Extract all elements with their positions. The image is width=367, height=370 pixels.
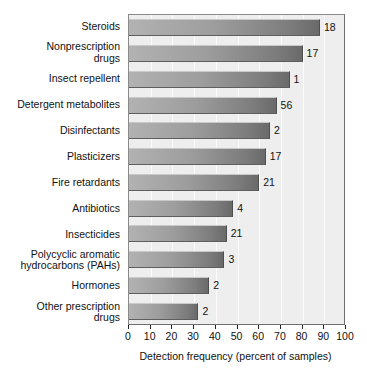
category-axis-labels: SteroidsNonprescription drugsInsect repe… <box>0 14 124 325</box>
category-label: Steroids <box>0 14 124 40</box>
bar-value-label: 2 <box>213 280 219 291</box>
bar-row: 21 <box>129 221 344 247</box>
x-axis-title: Detection frequency (percent of samples) <box>0 350 367 362</box>
bar-row: 17 <box>129 144 344 170</box>
bar-chart: SteroidsNonprescription drugsInsect repe… <box>0 0 367 370</box>
bar <box>129 97 277 114</box>
bar-value-label: 21 <box>231 228 243 239</box>
bar-row: 56 <box>129 92 344 118</box>
bar-row: 21 <box>129 170 344 196</box>
category-label: Disinfectants <box>0 118 124 144</box>
bar <box>129 122 270 139</box>
bar-value-label: 2 <box>202 306 208 317</box>
bar-value-label: 18 <box>324 22 336 33</box>
bar-value-label: 3 <box>228 254 234 265</box>
x-tick-mark <box>258 325 259 329</box>
x-tick-label: 0 <box>125 330 131 342</box>
category-label: Fire retardants <box>0 170 124 196</box>
bar <box>129 303 198 320</box>
x-axis: 0102030405060708090100 <box>128 325 345 347</box>
bar <box>129 251 224 268</box>
bar-value-label: 21 <box>263 177 275 188</box>
x-tick-mark <box>171 325 172 329</box>
x-tick-label: 20 <box>166 330 178 342</box>
x-tick-label: 60 <box>252 330 264 342</box>
bar-row: 3 <box>129 247 344 273</box>
bar <box>129 148 266 165</box>
category-label: Nonprescription drugs <box>0 40 124 66</box>
bar-row: 1 <box>129 67 344 93</box>
x-tick-mark <box>323 325 324 329</box>
category-label: Polycyclic aromatic hydrocarbons (PAHs) <box>0 247 124 273</box>
category-label: Other prescription drugs <box>0 299 124 325</box>
bar <box>129 71 290 88</box>
bar-value-label: 17 <box>307 48 319 59</box>
bar <box>129 225 227 242</box>
bar-value-label: 1 <box>294 74 300 85</box>
plot-area: 181715621721421322 <box>128 14 345 325</box>
bar-row: 2 <box>129 298 344 324</box>
x-tick-mark <box>128 325 129 329</box>
x-tick-label: 80 <box>296 330 308 342</box>
category-label: Plasticizers <box>0 144 124 170</box>
x-tick-label: 90 <box>317 330 329 342</box>
x-tick-label: 30 <box>187 330 199 342</box>
category-label: Insecticides <box>0 221 124 247</box>
bar-row: 2 <box>129 118 344 144</box>
x-tick-label: 10 <box>144 330 156 342</box>
bar-row: 4 <box>129 195 344 221</box>
x-tick-mark <box>215 325 216 329</box>
bar <box>129 45 303 62</box>
bar-series: 181715621721421322 <box>129 15 344 324</box>
x-tick-mark <box>280 325 281 329</box>
bar-value-label: 17 <box>270 151 282 162</box>
x-tick-label: 40 <box>209 330 221 342</box>
x-tick-mark <box>193 325 194 329</box>
category-label: Insect repellent <box>0 66 124 92</box>
x-tick-label: 70 <box>274 330 286 342</box>
x-tick-mark <box>150 325 151 329</box>
x-tick-label: 50 <box>231 330 243 342</box>
category-label: Antibiotics <box>0 195 124 221</box>
x-axis-title-text: Detection frequency (percent of samples) <box>139 350 331 362</box>
bar-row: 17 <box>129 41 344 67</box>
bar-value-label: 56 <box>281 100 293 111</box>
x-tick-label: 100 <box>336 330 354 342</box>
x-tick-mark <box>345 325 346 329</box>
category-label: Detergent metabolites <box>0 92 124 118</box>
bar <box>129 174 259 191</box>
bar-value-label: 4 <box>237 203 243 214</box>
bar-row: 18 <box>129 15 344 41</box>
bar-value-label: 2 <box>274 125 280 136</box>
x-tick-mark <box>302 325 303 329</box>
bar <box>129 200 233 217</box>
category-label: Hormones <box>0 273 124 299</box>
bar <box>129 19 320 36</box>
x-tick-mark <box>237 325 238 329</box>
bar <box>129 277 209 294</box>
bar-row: 2 <box>129 273 344 299</box>
